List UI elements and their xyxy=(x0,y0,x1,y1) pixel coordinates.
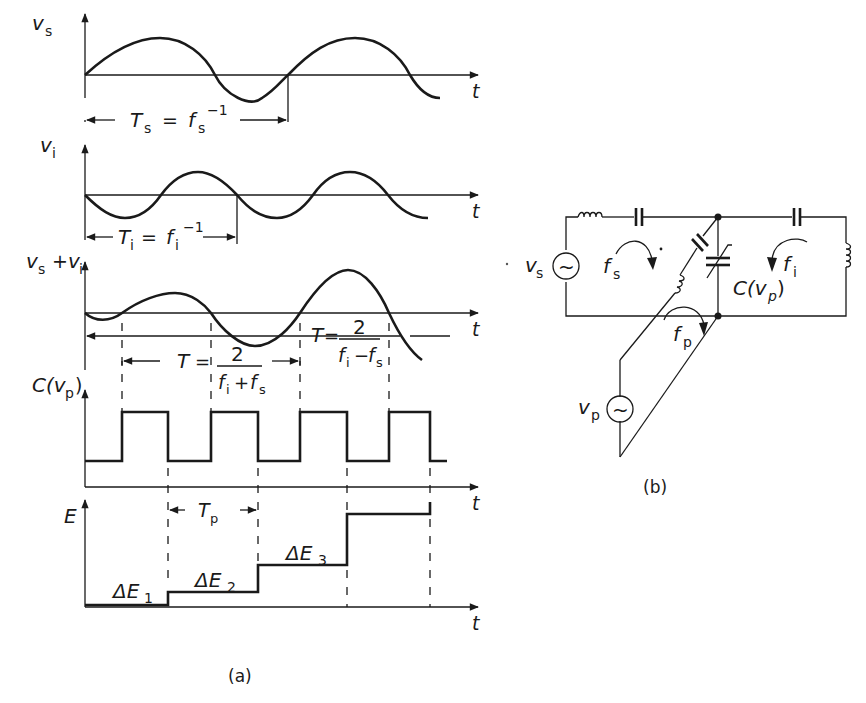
energy-t-label: t xyxy=(472,612,481,634)
svg-text:s: s xyxy=(38,261,45,277)
svg-text:i: i xyxy=(130,237,134,253)
pump-capacitor-icon xyxy=(692,234,708,251)
svg-text:2: 2 xyxy=(231,342,244,366)
vs-axis-label: v xyxy=(32,11,45,35)
idler-waveform-plot: v i t T i = f i −1 xyxy=(40,133,481,253)
svg-text:s: s xyxy=(613,266,620,282)
vi-t-label: t xyxy=(472,200,481,222)
pump-axis-label: C(v xyxy=(32,373,67,397)
pump-source: ~ v p xyxy=(578,395,633,423)
svg-text:s: s xyxy=(259,382,266,397)
signal-inductor-icon xyxy=(578,213,602,218)
svg-text:v: v xyxy=(578,395,591,419)
svg-text:~: ~ xyxy=(612,398,629,422)
energy-staircase-plot: E t T p ΔE 1 ΔE 2 ΔE 3 xyxy=(64,499,481,634)
svg-text:i: i xyxy=(52,145,56,161)
svg-text:f: f xyxy=(673,322,683,346)
svg-text:T: T xyxy=(311,323,325,347)
idler-loop-arrow-icon: f i xyxy=(767,239,807,280)
svg-text:C(v: C(v xyxy=(733,276,768,300)
parametric-circuit: ~ v s C(v p ) ~ xyxy=(506,208,851,457)
idler-inductor-icon xyxy=(846,243,851,267)
beat-period-label: T = 2 f i − f s xyxy=(311,315,383,370)
svg-text:f: f xyxy=(603,254,613,278)
vs-period-label: T xyxy=(130,108,144,132)
svg-text:+: + xyxy=(52,250,68,272)
svg-text:2: 2 xyxy=(353,315,366,339)
delta-e3-label: ΔE 3 xyxy=(284,541,327,568)
svg-text:=: = xyxy=(162,109,178,131)
sum-waveform-plot: v s + v i t T = 2 f i − f s T = 2 f i + … xyxy=(26,249,481,412)
sum-period-label: T = 2 f i + f s xyxy=(177,342,266,397)
svg-text:f: f xyxy=(188,108,198,132)
svg-text:1: 1 xyxy=(144,590,153,606)
pump-capacitance-plot: C(v p ) t xyxy=(32,373,481,607)
svg-text:=: = xyxy=(141,226,157,248)
pump-loop-arrow-icon: f p xyxy=(664,307,708,350)
svg-text:p: p xyxy=(591,407,600,423)
svg-text:i: i xyxy=(175,237,179,253)
signal-loop-arrow-icon: f s xyxy=(603,241,657,282)
signal-waveform-plot: v s t T s = f s −1 xyxy=(32,11,481,136)
idler-capacitor-icon xyxy=(794,208,800,226)
svg-text:i: i xyxy=(226,382,230,397)
svg-text:i: i xyxy=(793,264,797,280)
sum-t-label: t xyxy=(472,318,481,340)
svg-text:=: = xyxy=(195,351,210,372)
svg-text:p: p xyxy=(683,334,692,350)
signal-capacitor-icon xyxy=(636,208,642,226)
svg-text:ΔE: ΔE xyxy=(111,579,140,603)
svg-text:i: i xyxy=(346,355,350,370)
pump-square-wave xyxy=(85,412,447,461)
vs-sine-curve xyxy=(85,38,440,101)
parametric-amplifier-figure: v s t T s = f s −1 v i t T i = f i −1 xyxy=(0,0,866,703)
svg-text:=: = xyxy=(324,325,339,346)
svg-text:): ) xyxy=(777,276,785,300)
svg-text:i: i xyxy=(79,261,83,277)
svg-text:2: 2 xyxy=(227,579,236,595)
svg-text:s: s xyxy=(536,265,543,281)
panel-b-caption: (b) xyxy=(643,477,667,497)
svg-text:ΔE: ΔE xyxy=(284,541,313,565)
vs-t-label: t xyxy=(472,80,481,102)
svg-text:+: + xyxy=(234,372,249,393)
delta-e1-label: ΔE 1 xyxy=(111,579,153,606)
svg-text:s: s xyxy=(376,355,383,370)
delta-e2-label: ΔE 2 xyxy=(193,568,236,595)
svg-text:s: s xyxy=(144,120,151,136)
svg-text:3: 3 xyxy=(318,552,327,568)
svg-text:p: p xyxy=(65,385,74,401)
signal-source: ~ v s xyxy=(525,253,579,281)
pump-t-label: t xyxy=(472,492,481,514)
svg-text:−1: −1 xyxy=(207,102,228,118)
svg-text:s: s xyxy=(45,23,52,39)
svg-text:−: − xyxy=(354,345,369,366)
svg-text:s: s xyxy=(198,120,205,136)
svg-text:T: T xyxy=(177,349,191,373)
varactor-label: C(v p ) xyxy=(733,276,785,304)
svg-text:p: p xyxy=(767,288,777,304)
svg-text:): ) xyxy=(75,374,82,396)
svg-text:p: p xyxy=(210,511,218,526)
svg-text:ΔE: ΔE xyxy=(193,568,222,592)
panel-a-caption: (a) xyxy=(228,666,252,686)
energy-axis-label: E xyxy=(64,504,77,528)
varactor-icon xyxy=(706,245,732,278)
pump-inductor-icon xyxy=(675,275,684,293)
svg-text:f: f xyxy=(783,252,793,276)
svg-text:−1: −1 xyxy=(183,219,204,235)
svg-text:~: ~ xyxy=(558,255,575,279)
